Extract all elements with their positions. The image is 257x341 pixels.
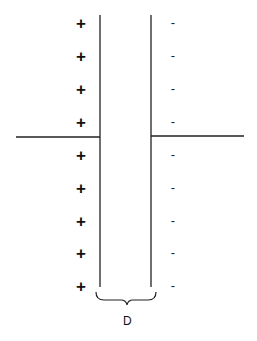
plus-sign: + [74, 213, 88, 230]
capacitor-diagram [0, 0, 257, 341]
minus-sign: - [168, 148, 178, 161]
plus-sign: + [74, 81, 88, 98]
gap-label: D [123, 314, 132, 328]
plus-sign: + [74, 147, 88, 164]
plus-sign: + [74, 15, 88, 32]
gap-brace [96, 292, 156, 305]
plus-sign: + [74, 278, 88, 295]
minus-sign: - [168, 279, 178, 292]
minus-sign: - [168, 214, 178, 227]
minus-sign: - [168, 82, 178, 95]
minus-sign: - [168, 181, 178, 194]
plus-sign: + [74, 180, 88, 197]
minus-sign: - [168, 16, 178, 29]
plus-sign: + [74, 114, 88, 131]
minus-sign: - [168, 115, 178, 128]
plus-sign: + [74, 48, 88, 65]
plus-sign: + [74, 245, 88, 262]
minus-sign: - [168, 246, 178, 259]
minus-sign: - [168, 49, 178, 62]
